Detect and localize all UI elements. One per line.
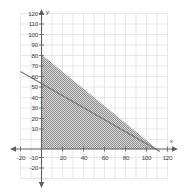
x-tick-label-120: 120 xyxy=(159,155,176,161)
y-tick-label-20: 20 xyxy=(26,116,38,122)
y-tick-label-10: 10 xyxy=(26,126,38,132)
coordinate-graph: 120 110 100 90 80 70 60 50 40 30 20 10 -… xyxy=(0,0,186,192)
y-tick-label-70: 70 xyxy=(26,63,38,69)
y-axis-name: y xyxy=(46,9,49,15)
y-tick-label-80: 80 xyxy=(26,53,38,59)
y-tick-label-30: 30 xyxy=(26,105,38,111)
x-tick-label-minus-20: -20 xyxy=(13,155,29,161)
x-tick-label-100: 100 xyxy=(138,155,155,161)
x-tick-label-60: 60 xyxy=(97,155,113,161)
y-tick-label-40: 40 xyxy=(26,95,38,101)
x-tick-label-80: 80 xyxy=(118,155,134,161)
x-axis-name: x xyxy=(170,138,173,144)
y-tick-label-100: 100 xyxy=(24,32,38,38)
y-tick-label-60: 60 xyxy=(26,74,38,80)
shaded-region xyxy=(42,55,158,150)
y-tick-label-110: 110 xyxy=(24,21,38,27)
y-tick-label-120: 120 xyxy=(24,11,38,17)
y-tick-label-90: 90 xyxy=(26,42,38,48)
x-tick-label-20: 20 xyxy=(55,155,71,161)
y-tick-label-50: 50 xyxy=(26,84,38,90)
x-tick-label-40: 40 xyxy=(76,155,92,161)
y-tick-label-minus-20: -20 xyxy=(24,165,38,171)
